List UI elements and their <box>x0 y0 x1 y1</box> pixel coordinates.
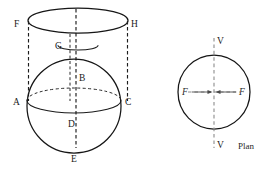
label-F-left-plan: F <box>181 87 188 97</box>
cylinder-top-ellipse <box>28 8 128 33</box>
plan-drawing: V V F F Plan <box>178 36 255 151</box>
technical-drawing-figure: F H G B A C D E V V <box>0 0 270 171</box>
label-E-elevation: E <box>71 154 77 164</box>
label-F-right-plan: F <box>238 87 245 97</box>
plan-caption: Plan <box>238 141 255 151</box>
sphere-equator-front-arc <box>27 101 121 113</box>
label-V-bottom: V <box>217 140 224 150</box>
label-H-elevation: H <box>131 19 138 29</box>
elevation-drawing: F H G B A C D E <box>13 8 138 164</box>
plan-force-arrow-left-head <box>208 90 213 94</box>
cylinder-bottom-front-arc <box>58 46 98 51</box>
sphere-equator-rear-arc-dashed <box>27 88 121 100</box>
label-V-top: V <box>217 36 224 46</box>
plan-force-arrow-right-head <box>216 90 221 94</box>
label-A-elevation: A <box>13 97 20 107</box>
sphere-outline <box>27 59 121 153</box>
label-B-elevation: B <box>79 73 85 83</box>
label-G-elevation: G <box>55 41 62 51</box>
label-F-elevation: F <box>14 19 19 29</box>
figure-canvas: F H G B A C D E V V <box>0 0 270 171</box>
label-C-elevation: C <box>125 97 131 107</box>
label-D-elevation: D <box>68 119 75 129</box>
